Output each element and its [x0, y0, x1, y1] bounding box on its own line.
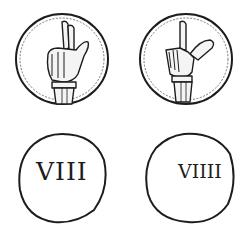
right-token-obverse [136, 10, 236, 108]
hand-pointing-icon [166, 21, 214, 102]
numeral-viiii: VIIII [178, 160, 222, 182]
token-plate: VIII VIIII [0, 0, 246, 238]
numeral-viii: VIII [36, 157, 88, 186]
left-token-obverse [12, 10, 112, 108]
hand-two-fingers-icon [48, 21, 89, 104]
